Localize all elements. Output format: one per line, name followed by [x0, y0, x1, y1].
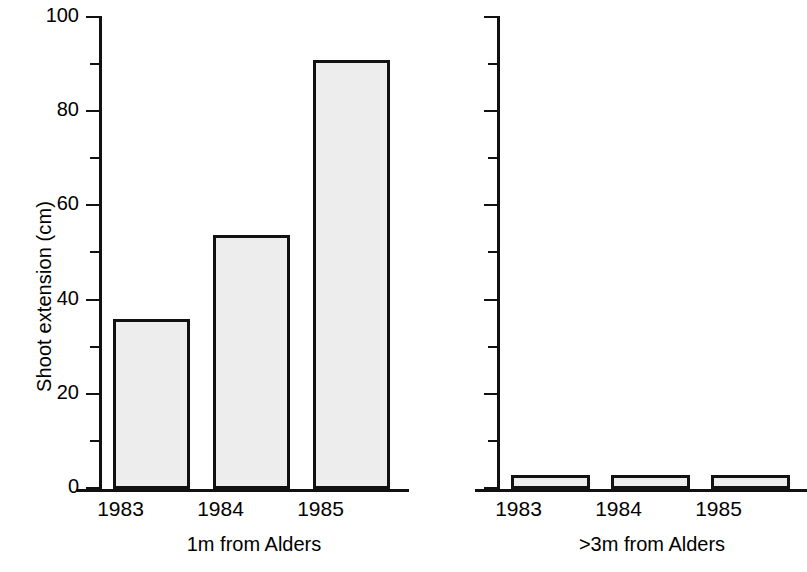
panel-caption-right: >3m from Alders — [497, 533, 807, 556]
bar-left-1985 — [313, 60, 390, 489]
y-tick-40-right — [484, 299, 497, 301]
y-tick-50 — [90, 251, 99, 253]
y-tick-80: 80 — [86, 110, 99, 112]
bar-right-1985 — [711, 475, 790, 489]
y-tick-label-80: 80 — [31, 98, 79, 121]
y-tick-70 — [90, 157, 99, 159]
bar-left-1983 — [113, 319, 190, 489]
y-tick-20: 20 — [86, 393, 99, 395]
y-tick-0-right — [484, 487, 497, 489]
bar-right-1984 — [611, 475, 690, 489]
panel-caption-left: 1m from Alders — [99, 533, 409, 556]
y-tick-60: 60 — [86, 204, 99, 206]
x-category-label-1985-right: 1985 — [672, 497, 765, 521]
y-tick-100-right — [484, 16, 497, 18]
y-tick-label-100: 100 — [31, 4, 79, 27]
x-axis-line-right — [475, 489, 807, 492]
plot-area-left: 100 80 60 40 20 0 — [99, 18, 409, 489]
bar-left-1984 — [213, 235, 290, 489]
y-tick-60-right — [484, 204, 497, 206]
x-category-label-1984-right: 1984 — [572, 497, 665, 521]
y-tick-label-0: 0 — [31, 475, 79, 498]
y-tick-30 — [90, 346, 99, 348]
x-category-label-1985: 1985 — [274, 497, 367, 521]
y-tick-label-60: 60 — [31, 192, 79, 215]
y-axis-line — [99, 16, 102, 491]
y-tick-90-right — [488, 63, 497, 65]
y-tick-50-right — [488, 251, 497, 253]
y-tick-20-right — [484, 393, 497, 395]
y-tick-70-right — [488, 157, 497, 159]
x-category-label-1983-right: 1983 — [472, 497, 565, 521]
x-category-label-1984: 1984 — [174, 497, 267, 521]
y-axis-line-right — [497, 16, 500, 491]
chart-panel-right: 1983 1984 1985 >3m from Alders — [440, 0, 799, 572]
y-tick-label-40: 40 — [31, 287, 79, 310]
plot-area-right — [497, 18, 807, 489]
y-tick-80-right — [484, 110, 497, 112]
y-tick-30-right — [488, 346, 497, 348]
x-axis-line — [77, 489, 409, 492]
y-tick-label-20: 20 — [31, 381, 79, 404]
y-tick-90 — [90, 63, 99, 65]
y-tick-10 — [90, 440, 99, 442]
chart-panel-left: Shoot extension (cm) 100 80 60 40 20 — [0, 0, 440, 572]
x-category-label-1983: 1983 — [74, 497, 167, 521]
y-tick-40: 40 — [86, 299, 99, 301]
y-tick-0: 0 — [86, 487, 99, 489]
bar-right-1983 — [511, 475, 590, 489]
y-tick-10-right — [488, 440, 497, 442]
y-tick-100: 100 — [86, 16, 99, 18]
